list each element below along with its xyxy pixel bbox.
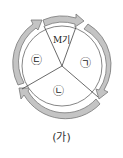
- label-sector-b: ㉡: [53, 82, 64, 98]
- label-m-phase: M기: [53, 33, 70, 46]
- figure-caption: (가): [0, 128, 123, 144]
- cell-cycle-diagram: [0, 0, 123, 120]
- label-sector-c: ㉢: [31, 51, 42, 67]
- arrow-top: [43, 14, 84, 27]
- label-sector-a: ㉠: [80, 54, 91, 70]
